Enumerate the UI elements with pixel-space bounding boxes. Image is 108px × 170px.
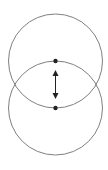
- arrow-head-up: [53, 70, 59, 76]
- lower-point: [53, 106, 57, 110]
- double-arrow-icon: [53, 70, 59, 99]
- arrow-head-down: [53, 93, 59, 99]
- upper-point: [53, 59, 57, 63]
- overlapping-circles-diagram: [0, 0, 108, 170]
